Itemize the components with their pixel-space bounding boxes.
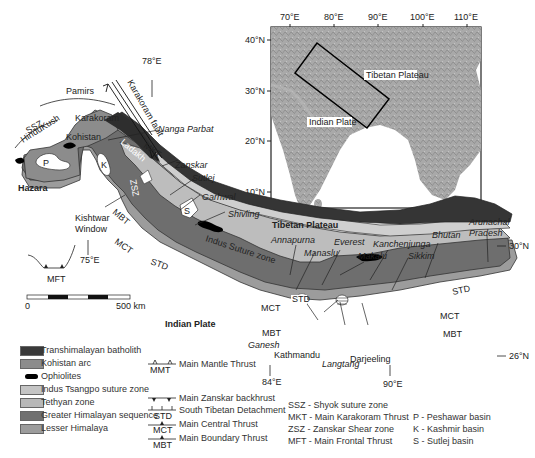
- legend-label: Greater Himalayan sequence: [41, 410, 158, 420]
- inset-map: Tibetan Plateau Indian Plate 70°E 80°E 9…: [245, 12, 481, 209]
- label-manaslu: Manaslu: [304, 248, 338, 258]
- basin-item: K - Kashmir basin: [413, 424, 484, 434]
- label-ganesh: Ganesh: [248, 340, 280, 350]
- basin-item: P - Peshawar basin: [413, 412, 491, 422]
- label-arunachal: Arunachal: [468, 217, 511, 227]
- label-basin-p: P: [43, 158, 49, 168]
- label-karakoram: Karakoram: [75, 113, 119, 123]
- legend-label: Kohistan arc: [41, 358, 91, 368]
- label-mbt-east: MBT: [443, 329, 463, 339]
- legend-label: Lesser Himalaya: [41, 423, 108, 433]
- inset-lat-ticks: 40°N 30°N 20°N 10°N: [245, 35, 271, 197]
- legend-fault-label: Main Boundary Thrust: [179, 433, 267, 443]
- legend-fault-label: Main Central Thrust: [179, 419, 258, 429]
- svg-text:MCT: MCT: [440, 311, 460, 321]
- svg-text:110°E: 110°E: [454, 12, 478, 22]
- scale-max: 500 km: [116, 301, 146, 311]
- label-kohistan: Kohistan: [66, 132, 101, 142]
- label-mft: MFT: [47, 274, 66, 284]
- inset-lon-ticks: 70°E 80°E 90°E 100°E 110°E: [280, 12, 478, 27]
- legend-label: Transhimalayan batholith: [41, 345, 141, 355]
- label-everest: Everest: [334, 237, 365, 247]
- label-window: Window: [75, 224, 108, 234]
- label-tibetan-plateau: Tibetan Plateau: [272, 220, 338, 230]
- label-annapurna: Annapurna: [270, 235, 315, 245]
- legend-fault-label: Main Mantle Thrust: [179, 359, 256, 369]
- coord-75e: 75°E: [80, 255, 100, 265]
- label-nanga-parbat: Nanga Parbat: [158, 124, 214, 134]
- coord-30n: 30°N: [509, 241, 529, 251]
- label-pradesh: Pradesh: [469, 228, 503, 238]
- legend-fault-label: Main Zanskar backhrust: [179, 393, 275, 403]
- mft-trace: [28, 245, 75, 268]
- coord-84e: 84°E: [262, 377, 282, 387]
- svg-text:100°E: 100°E: [410, 12, 435, 22]
- abbr-item: ZSZ - Zanskar Shear zone: [288, 424, 394, 434]
- svg-text:40°N: 40°N: [245, 35, 265, 45]
- svg-text:90°E: 90°E: [368, 12, 388, 22]
- abbr-item: MFT - Main Frontal Thrust: [288, 436, 392, 446]
- label-indian-plate: Indian Plate: [165, 319, 216, 329]
- label-pamirs: Pamirs: [66, 86, 95, 96]
- label-basin-s: S: [184, 206, 190, 216]
- abbr-item: MKT - Main Karakoram Thrust: [288, 412, 409, 422]
- svg-text:MCT: MCT: [261, 303, 281, 313]
- swatch-ophiolites: [25, 374, 38, 379]
- label-sutlej: Sutlej: [192, 173, 216, 183]
- basin-item: S - Sutlej basin: [413, 436, 474, 446]
- coord-26n: 26°N: [509, 351, 529, 361]
- label-sikkim: Sikkim: [408, 251, 435, 261]
- scale-bar: 0 500 km: [25, 295, 146, 311]
- svg-text:20°N: 20°N: [245, 136, 265, 146]
- label-shivling: Shivling: [228, 209, 260, 219]
- svg-text:80°E: 80°E: [324, 12, 344, 22]
- legend-label: Tethyan zone: [41, 397, 95, 407]
- coord-90e: 90°E: [383, 379, 403, 389]
- scale-zero: 0: [25, 301, 30, 311]
- legend-label: Indus Tsangpo suture zone: [41, 384, 149, 394]
- label-garhwal: Garhwal: [202, 192, 237, 202]
- label-kathmandu: Kathmandu: [274, 350, 320, 360]
- coord-78e: 78°E: [142, 56, 162, 66]
- label-makalu: Makalu: [358, 251, 387, 261]
- label-darjeeling: Darjeeling: [350, 354, 391, 364]
- label-kishtwar: Kishtwar: [75, 213, 110, 223]
- inset-label-tibetan-plateau: Tibetan Plateau: [366, 70, 429, 80]
- legend-label: Ophiolites: [41, 371, 81, 381]
- inset-label-indian-plate: Indian Plate: [309, 117, 357, 127]
- label-basin-k: K: [101, 160, 107, 170]
- svg-text:70°E: 70°E: [280, 12, 300, 22]
- svg-text:STD: STD: [451, 283, 471, 297]
- label-hazara: Hazara: [18, 183, 49, 193]
- label-kanchenjunga: Kanchenjunga: [373, 239, 431, 249]
- svg-text:30°N: 30°N: [245, 86, 265, 96]
- label-zanskar: Zanskar: [174, 160, 209, 170]
- svg-text:STD: STD: [292, 294, 311, 304]
- label-mbt-central: MBT: [262, 328, 282, 338]
- abbr-item: SSZ - Shyok suture zone: [288, 400, 388, 410]
- legend-fault-label: South Tibetan Detachment: [179, 405, 286, 415]
- label-bhutan: Bhutan: [432, 230, 461, 240]
- svg-text:MCT: MCT: [113, 236, 135, 256]
